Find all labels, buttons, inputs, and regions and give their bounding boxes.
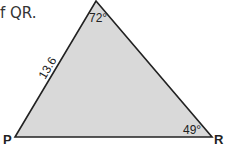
vertex-p-label: P [3,132,12,146]
triangle-diagram: 72° 49° 13.6 P R [0,0,226,146]
angle-q-label: 72° [89,11,107,25]
angle-r-label: 49° [183,123,201,137]
vertex-r-label: R [214,132,224,146]
